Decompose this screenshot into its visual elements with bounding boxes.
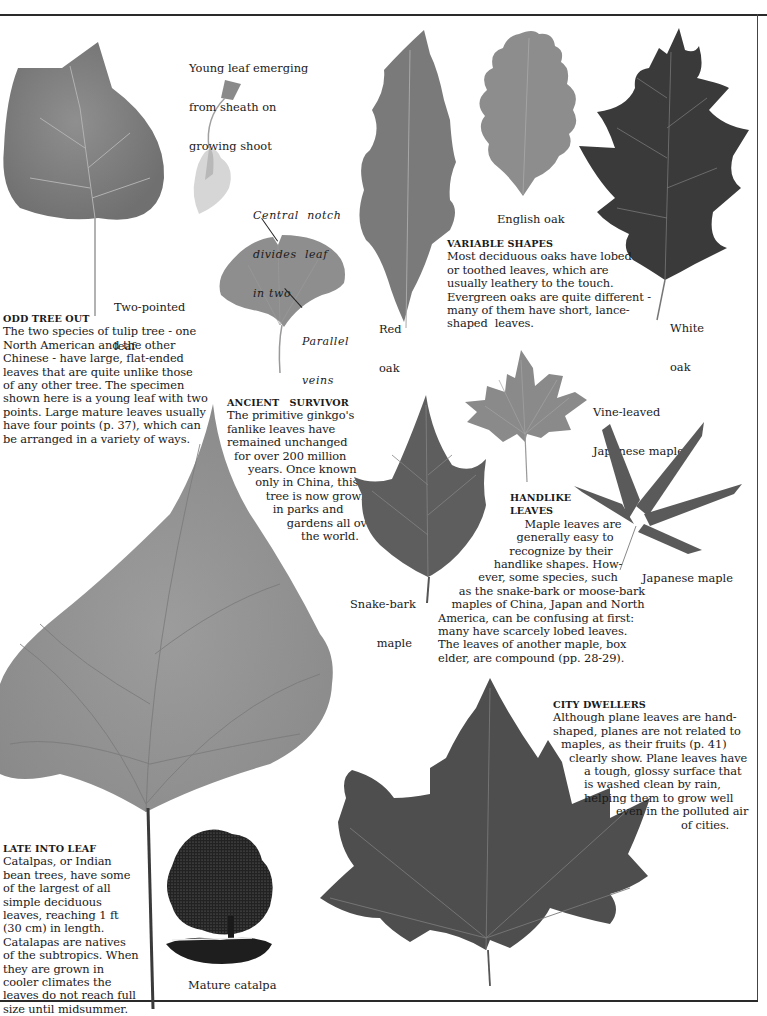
caption-line: they are grown in [3, 963, 139, 976]
caption-line: helping them to grow well [553, 792, 748, 805]
label-line: oak [379, 362, 402, 375]
young-leaf-label: Young leaf emerging from sheath on growi… [189, 36, 308, 166]
parallel-veins-label: Parallel veins [302, 309, 349, 400]
variable-shapes-caption: VARIABLE SHAPES Most deciduous oaks have… [447, 237, 651, 331]
caption-line: a tough, glossy surface that [553, 765, 748, 778]
label-line: Young leaf emerging [189, 62, 308, 75]
label-line: veins [302, 374, 349, 387]
right-rule [757, 14, 758, 1001]
caption-line: The two species of tulip tree - one [3, 325, 208, 338]
caption-line: of the largest of all [3, 882, 139, 895]
label-line: Snake-bark [350, 598, 412, 611]
caption-line: leaves that are quite unlike those [3, 366, 208, 379]
red-oak-leaf-image [352, 30, 462, 330]
section-heading: LATE INTO LEAF [3, 842, 139, 855]
caption-line: maples of China, Japan and North [418, 598, 678, 611]
city-dwellers-caption: CITY DWELLERS Although plane leaves are … [553, 698, 748, 832]
section-heading: HANDLIKE LEAVES [510, 491, 678, 518]
caption-line: of the subtropics. When [3, 949, 139, 962]
catalpa-tree-engraving-image [162, 826, 278, 966]
heading-line: HANDLIKE [510, 492, 571, 503]
label-line: divides leaf [253, 248, 342, 261]
caption-line: (30 cm) in length. [3, 922, 139, 935]
late-into-leaf-caption: LATE INTO LEAF Catalpas, or Indian bean … [3, 842, 139, 1016]
snake-bark-maple-label: Snake-bark maple [350, 572, 412, 663]
caption-line: shaped, planes are not related to [553, 725, 748, 738]
caption-line: Catalapas are natives [3, 936, 139, 949]
caption-line: generally easy to [438, 531, 678, 544]
caption-line: North American and the other [3, 339, 208, 352]
caption-line: as the snake-bark or moose-bark [426, 585, 678, 598]
caption-line: America, can be confusing at first: [438, 612, 678, 625]
caption-line: of cities. [553, 819, 748, 832]
caption-line: The leaves of another maple, box [438, 638, 678, 651]
label-line: maple [350, 637, 412, 650]
caption-line: size until midsummer. [3, 1003, 139, 1016]
caption-line: usually leathery to the touch. [447, 277, 651, 290]
caption-line: leaves do not reach full [3, 989, 139, 1002]
label-line: White [670, 322, 704, 335]
caption-line: Most deciduous oaks have lobed [447, 250, 651, 263]
label-line: Parallel [302, 335, 349, 348]
label-line: Vine-leaved [593, 406, 684, 419]
caption-line: Catalpas, or Indian [3, 855, 139, 868]
caption-line: ever, some species, such [418, 571, 678, 584]
caption-line: or toothed leaves, which are [447, 264, 651, 277]
english-oak-leaf-image [473, 28, 585, 200]
label-line: Red [379, 323, 402, 336]
mature-catalpa-label: Mature catalpa [188, 979, 276, 992]
caption-line: bean trees, have some [3, 869, 139, 882]
top-rule [0, 14, 767, 16]
caption-line: is washed clean by rain, [553, 778, 748, 791]
caption-line: simple deciduous [3, 896, 139, 909]
caption-line: leaves, reaching 1 ft [3, 909, 139, 922]
caption-line: many have scarcely lobed leaves. [438, 625, 678, 638]
caption-line: elder, are compound (pp. 28-29). [438, 652, 678, 665]
caption-line: of any other tree. The specimen [3, 379, 208, 392]
caption-line: many of them have short, lance- [447, 304, 651, 317]
label-line: oak [670, 361, 704, 374]
label-line: from sheath on [189, 101, 308, 114]
english-oak-label: English oak [497, 213, 565, 226]
label-line: in two [253, 287, 342, 300]
caption-line: recognize by their [438, 545, 678, 558]
heading-line: LEAVES [510, 505, 553, 516]
label-line: growing shoot [189, 140, 308, 153]
caption-line: Although plane leaves are hand- [553, 711, 748, 724]
caption-line: Evergreen oaks are quite different - [447, 291, 651, 304]
caption-line: maples, as their fruits (p. 41) [553, 738, 748, 751]
caption-line: even in the polluted air [553, 805, 748, 818]
label-line: Central notch [253, 209, 342, 222]
caption-line: cooler climates the [3, 976, 139, 989]
caption-line: shaped leaves. [447, 317, 651, 330]
handlike-leaves-caption: HANDLIKE LEAVES Maple leaves are general… [438, 491, 678, 665]
caption-line: clearly show. Plane leaves have [553, 752, 748, 765]
section-heading: CITY DWELLERS [553, 698, 748, 711]
white-oak-label: White oak [670, 296, 704, 387]
red-oak-label: Red oak [379, 297, 402, 388]
section-heading: VARIABLE SHAPES [447, 237, 651, 250]
caption-line: Chinese - have large, flat-ended [3, 352, 208, 365]
section-heading: ODD TREE OUT [3, 312, 208, 325]
caption-line: handlike shapes. How- [438, 558, 678, 571]
caption-line: Maple leaves are [438, 518, 678, 531]
central-notch-label: Central notch divides leaf in two [253, 183, 342, 313]
